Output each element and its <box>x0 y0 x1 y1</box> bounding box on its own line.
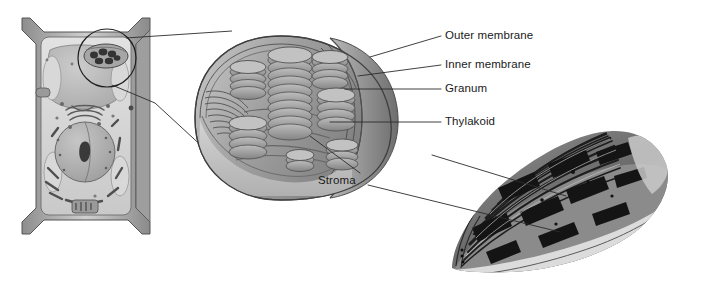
figure-artwork <box>0 0 708 299</box>
plant-cell-illustration <box>22 18 150 234</box>
granum-stack <box>317 88 355 131</box>
granum-stack <box>268 47 312 140</box>
figure-canvas: Outer membrane Inner membrane Granum Thy… <box>0 0 708 299</box>
granum-stack <box>229 116 267 159</box>
granum-stack <box>312 51 348 90</box>
label-granum: Granum <box>445 83 487 95</box>
chloroplast-micrograph <box>450 131 672 278</box>
label-stroma: Stroma <box>318 175 356 187</box>
cell-chloroplast-source <box>84 44 128 68</box>
label-outer-membrane: Outer membrane <box>445 30 533 42</box>
chloroplast-cutaway-illustration <box>195 36 398 200</box>
granum-stack <box>326 139 358 170</box>
label-thylakoid: Thylakoid <box>445 116 495 128</box>
label-inner-membrane: Inner membrane <box>445 59 531 71</box>
granum-stack <box>230 61 266 100</box>
granum-stack <box>286 150 314 172</box>
